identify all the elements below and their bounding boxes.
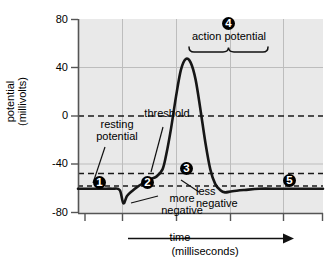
- x-axis-title: time: [150, 232, 210, 244]
- marker-3: 3: [180, 162, 193, 175]
- marker-1: 1: [93, 176, 106, 189]
- resting-potential-label-line2: potential: [84, 131, 150, 143]
- resting-potential-label-line1: resting: [84, 119, 150, 131]
- y-axis-title-line1: potential: [5, 62, 17, 142]
- less-negative-label-line1: less: [196, 186, 254, 198]
- threshold-label: threshold: [136, 108, 198, 120]
- x-axis-units-text: (milliseconds): [171, 245, 238, 257]
- resting-potential-label: resting potential: [84, 119, 150, 142]
- marker-5: 5: [283, 174, 296, 187]
- x-axis-units: (milliseconds): [145, 246, 265, 258]
- marker-2: 2: [141, 176, 154, 189]
- y-axis-ticks: [71, 20, 78, 213]
- action-potential-figure: 80 40 0 -40 -80 potential (millivolts) t…: [0, 0, 334, 268]
- y-axis-title: potential (millivolts): [0, 90, 56, 120]
- less-negative-label-line2: negative: [196, 198, 254, 210]
- ytick-label-minus-40: -40: [41, 157, 68, 169]
- less-negative-label: less negative: [196, 186, 254, 209]
- ytick-label-minus-80: -80: [41, 206, 68, 218]
- y-axis-title-line2: (millivolts): [16, 62, 28, 142]
- x-axis-title-text: time: [170, 231, 191, 243]
- ytick-label-80: 80: [47, 13, 68, 25]
- chart-canvas: [0, 0, 334, 268]
- marker-4: 4: [222, 17, 235, 30]
- action-potential-label: action potential: [186, 31, 272, 43]
- ytick-label-40: 40: [47, 61, 68, 73]
